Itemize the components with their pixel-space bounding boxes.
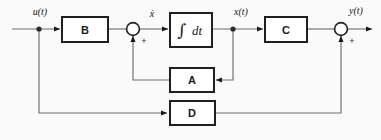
block-d-label: D [188, 107, 196, 119]
block-integrator[interactable]: ∫ dt [170, 13, 212, 47]
signal-label-state: x(t) [233, 6, 249, 18]
block-b[interactable]: B [62, 17, 108, 42]
summing-junction-1[interactable] [127, 23, 140, 36]
summing-junction-2[interactable] [335, 23, 348, 36]
block-a-label: A [188, 74, 196, 86]
block-b-label: B [81, 24, 89, 36]
integral-symbol: ∫ [178, 20, 187, 40]
block-c[interactable]: C [265, 17, 307, 42]
wire-x-to-a [216, 29, 233, 80]
sum1-plus-sign: + [141, 36, 146, 46]
block-d[interactable]: D [170, 101, 215, 125]
integrator-dt-label: dt [192, 23, 203, 38]
junction-dot-input [36, 26, 41, 31]
block-c-label: C [282, 24, 290, 36]
junction-dot-state [230, 26, 235, 31]
signal-label-input: u(t) [33, 6, 48, 18]
wire-a-to-sum1 [133, 36, 170, 80]
signal-label-output: y(t) [348, 5, 364, 17]
sum2-plus-sign: + [349, 36, 354, 46]
block-diagram-canvas: B ∫ dt C A D + + [0, 0, 381, 140]
wire-d-to-sum2 [215, 36, 341, 113]
block-a[interactable]: A [170, 68, 214, 92]
signal-label-xdot: ẋ [149, 8, 155, 19]
